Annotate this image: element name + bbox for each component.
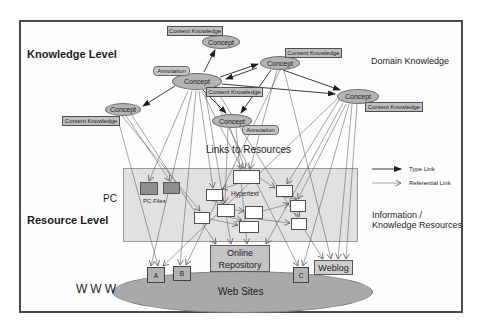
domain-knowledge-label: Domain Knowledge [371, 57, 449, 67]
hypertext-node-5 [245, 206, 263, 219]
information-line-2: Knowledge Resources [372, 221, 462, 231]
weblog-node: Weblog [314, 260, 353, 275]
content-knowledge-label-2: Content Knowledge [206, 87, 263, 97]
knowledge-level-label: Knowledge Level [27, 48, 117, 60]
content-knowledge-label-3: Content Knowledge [285, 48, 342, 58]
information-knowledge-resources-label: Information / Knowledge Resources [372, 211, 462, 231]
pc-file-node-2 [163, 182, 180, 194]
concept-node-1: Concept [202, 35, 240, 49]
hypertext-node-1 [233, 170, 260, 184]
site-node-b: B [173, 266, 191, 281]
pc-label: PC [103, 193, 117, 204]
online-repository-node: Online Repository [210, 245, 270, 272]
hypertext-node-9 [291, 218, 307, 230]
resource-level-label: Resource Level [27, 214, 108, 226]
hypertext-node-3 [276, 185, 293, 197]
diagram-canvas: Knowledge Level Domain Knowledge Links t… [0, 0, 478, 334]
hypertext-node-7 [290, 200, 306, 212]
content-knowledge-label-4: Content Knowledge [62, 116, 120, 126]
online-repository-line-1: Online [211, 247, 269, 259]
site-node-a: A [147, 267, 165, 283]
legend-arrows [372, 169, 401, 183]
concept-node-4: Concept [105, 103, 141, 116]
web-sites-label: Web Sites [218, 286, 263, 297]
pc-files-label: PC Files [143, 198, 166, 205]
content-knowledge-label-5: Content Knowledge [365, 102, 423, 112]
legend-type-link-label: Type Link [409, 166, 435, 173]
legend-referential-link-label: Referential Link [409, 180, 451, 187]
hypertext-node-4 [217, 204, 235, 217]
hypertext-node-8 [239, 221, 259, 233]
content-knowledge-label-1: Content Knowledge [167, 26, 223, 36]
annotation-label-1: Annotation [153, 66, 190, 76]
hypertext-node-2 [206, 189, 223, 201]
hypertext-node-6 [194, 212, 210, 224]
hypertext-label: Hypertext [231, 190, 259, 197]
concept-node-3: Concept [260, 56, 300, 70]
pc-file-node-1 [140, 182, 158, 195]
www-label: WWW [76, 283, 119, 296]
site-node-c: C [293, 267, 309, 283]
annotation-label-2: Annotation [242, 125, 279, 135]
links-to-resources-label: Links to Resources [206, 144, 291, 155]
online-repository-line-2: Repository [211, 259, 269, 271]
